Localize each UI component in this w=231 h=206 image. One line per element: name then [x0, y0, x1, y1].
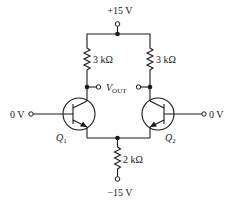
output-terminal-right	[136, 85, 140, 89]
emitter-resistor	[115, 138, 121, 177]
input-left-label: 0 V	[10, 109, 25, 120]
collector-resistor-right-label: 3 kΩ	[156, 54, 176, 65]
positive-supply-terminal	[115, 22, 120, 27]
input-left-terminal	[29, 112, 33, 116]
top-node-dot	[115, 32, 120, 37]
positive-supply-label: +15 V	[107, 5, 133, 16]
transistor-q1	[63, 98, 95, 138]
negative-supply-label: −15 V	[107, 187, 133, 198]
input-right-terminal	[202, 112, 206, 116]
transistor-q2-label: Q2	[165, 132, 176, 145]
collector-resistor-right	[147, 45, 153, 87]
negative-supply-terminal	[115, 177, 120, 182]
collector-resistor-left-label: 3 kΩ	[93, 54, 113, 65]
collector-resistor-left	[84, 45, 90, 87]
output-terminal-left	[96, 85, 100, 89]
input-right-label: 0 V	[209, 109, 224, 120]
output-label: VOUT	[106, 82, 127, 95]
circuit-diagram: +15 V 3 kΩ 3 kΩ VOUT Q1 Q2 0 V	[0, 0, 231, 206]
emitter-resistor-label: 2 kΩ	[123, 154, 143, 165]
transistor-q1-label: Q1	[56, 132, 67, 145]
